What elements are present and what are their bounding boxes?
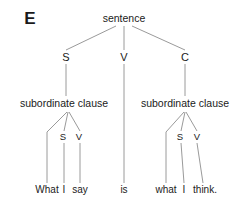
tree-node-clause-part-s-0: S: [58, 132, 68, 142]
tree-leaf-word-6: think.: [191, 185, 219, 195]
tree-leaf-word-3: is: [118, 185, 129, 195]
tree-leaf-word-0: What: [33, 185, 60, 195]
tree-node-category-v-1: V: [118, 52, 129, 63]
tree-edge-sentence-to-s: [66, 26, 116, 50]
tree-node-category-c-2: C: [179, 52, 191, 63]
tree-node-clause-part-v-3: V: [192, 132, 202, 142]
tree-node-sentence: sentence: [101, 13, 148, 24]
tree-leaf-word-4: what: [153, 185, 178, 195]
tree-edge-right-s-to-i: [181, 143, 184, 183]
tree-node-clause-part-s-2: S: [175, 132, 185, 142]
tree-edge-sentence-to-c: [132, 26, 185, 50]
tree-edge-right-clause-to-v: [186, 112, 197, 131]
tree-node-subordinate-clause-0: subordinate clause: [18, 98, 110, 109]
tree-leaf-word-5: I: [181, 185, 188, 195]
tree-leaf-word-2: say: [70, 185, 90, 195]
figure-label: E: [22, 10, 37, 27]
tree-node-category-s-0: S: [60, 52, 71, 63]
tree-edge-left-clause-to-v: [69, 112, 80, 131]
tree-edge-right-v-to-think: [197, 143, 203, 183]
syntax-tree-diagram: EsentenceSVCsubordinate clausesubordinat…: [0, 0, 249, 201]
tree-node-clause-part-v-1: V: [74, 132, 84, 142]
tree-leaf-word-1: I: [61, 185, 68, 195]
tree-node-subordinate-clause-1: subordinate clause: [139, 98, 231, 109]
